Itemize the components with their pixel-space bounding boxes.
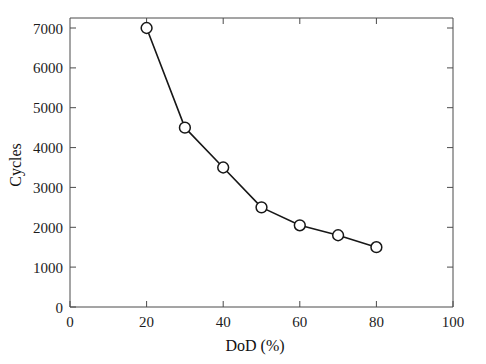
chart-background: [0, 0, 486, 364]
x-tick-label: 40: [216, 314, 231, 330]
chart-figure: 0 20 40 60 80 100 0 1000 2000 3000 4000 …: [0, 0, 486, 364]
y-tick-label: 0: [56, 300, 64, 316]
y-tick-label: 7000: [33, 21, 63, 37]
data-point-marker: [256, 202, 267, 213]
y-axis-title: Cycles: [7, 143, 25, 187]
y-tick-label: 2000: [33, 220, 63, 236]
x-axis-title: DoD (%): [225, 337, 284, 355]
x-tick-label: 80: [369, 314, 384, 330]
data-point-marker: [294, 220, 305, 231]
y-tick-label: 5000: [33, 100, 63, 116]
x-tick-label: 20: [139, 314, 154, 330]
y-tick-label: 4000: [33, 140, 63, 156]
x-tick-label: 60: [292, 314, 307, 330]
data-point-marker: [218, 162, 229, 173]
x-tick-label: 0: [66, 314, 74, 330]
data-point-marker: [180, 122, 191, 133]
y-tick-label: 3000: [33, 180, 63, 196]
y-tick-label: 6000: [33, 60, 63, 76]
data-point-marker: [371, 242, 382, 253]
line-chart-canvas: 0 20 40 60 80 100 0 1000 2000 3000 4000 …: [0, 0, 486, 364]
y-tick-label: 1000: [33, 260, 63, 276]
data-point-marker: [141, 23, 152, 34]
x-tick-label: 100: [442, 314, 465, 330]
data-point-marker: [333, 230, 344, 241]
